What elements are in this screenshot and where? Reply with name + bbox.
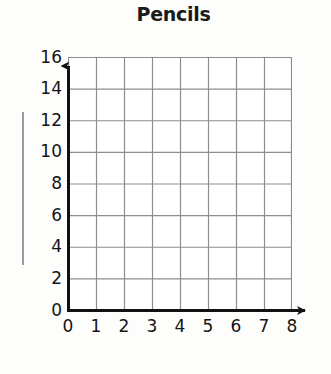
grid-lines xyxy=(68,57,292,310)
plot-area xyxy=(68,57,292,310)
x-axis-tick-label: 2 xyxy=(111,318,137,335)
y-axis-tick-label: 8 xyxy=(32,175,62,192)
y-axis-tick-label: 2 xyxy=(32,270,62,287)
x-axis-tick-label: 7 xyxy=(251,318,277,335)
y-axis-tick-label: 12 xyxy=(32,112,62,129)
x-axis-tick-label: 8 xyxy=(279,318,305,335)
y-axis-tick-label: 14 xyxy=(32,80,62,97)
x-axis-tick-label: 6 xyxy=(223,318,249,335)
x-axis-tick-label: 5 xyxy=(195,318,221,335)
x-axis-tick-label: 4 xyxy=(167,318,193,335)
y-axis-tick-label: 6 xyxy=(32,207,62,224)
x-axis-tick-labels: 012345678 xyxy=(0,318,331,342)
y-axis-tick-label: 16 xyxy=(32,49,62,66)
vertical-rule-decoration xyxy=(22,112,24,265)
y-axis-tick-label: 10 xyxy=(32,143,62,160)
x-axis-tick-label: 1 xyxy=(83,318,109,335)
y-axis-tick-label: 4 xyxy=(32,238,62,255)
x-axis-tick-label: 3 xyxy=(139,318,165,335)
x-axis-tick-label: 0 xyxy=(55,318,81,335)
y-axis-tick-label: 0 xyxy=(32,302,62,319)
